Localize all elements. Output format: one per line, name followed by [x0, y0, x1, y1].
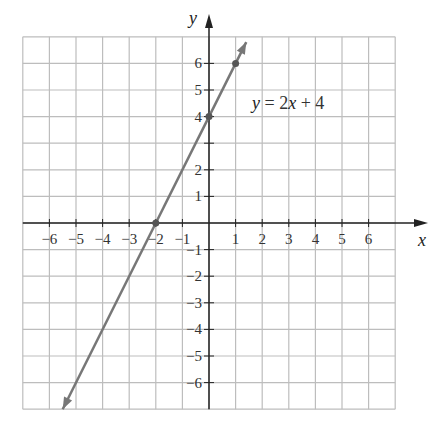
y-axis-label: y — [187, 8, 197, 28]
svg-text:1: 1 — [232, 231, 240, 247]
svg-text:4: 4 — [312, 231, 320, 247]
svg-text:−4: −4 — [186, 321, 202, 337]
svg-text:−5: −5 — [68, 231, 84, 247]
svg-text:2: 2 — [195, 162, 203, 178]
svg-text:5: 5 — [195, 82, 203, 98]
coordinate-plane: −6−5−4−3−2−1123456−6−5−4−3−2−112456 x y … — [0, 0, 446, 432]
svg-text:6: 6 — [195, 55, 203, 71]
svg-text:−2: −2 — [186, 268, 202, 284]
svg-text:5: 5 — [338, 231, 346, 247]
svg-text:−1: −1 — [186, 242, 202, 258]
line-plot — [63, 42, 247, 409]
axes — [23, 14, 428, 409]
svg-text:−5: −5 — [186, 348, 202, 364]
svg-text:3: 3 — [285, 231, 293, 247]
svg-text:6: 6 — [365, 231, 373, 247]
svg-text:−6: −6 — [41, 231, 57, 247]
svg-text:1: 1 — [195, 188, 203, 204]
equation-label: y = 2x + 4 — [250, 93, 324, 113]
svg-text:−6: −6 — [186, 375, 202, 391]
svg-text:−3: −3 — [186, 295, 202, 311]
svg-text:−3: −3 — [121, 231, 137, 247]
svg-text:2: 2 — [258, 231, 266, 247]
svg-text:4: 4 — [195, 109, 203, 125]
svg-text:−4: −4 — [95, 231, 111, 247]
x-axis-label: x — [417, 230, 426, 250]
